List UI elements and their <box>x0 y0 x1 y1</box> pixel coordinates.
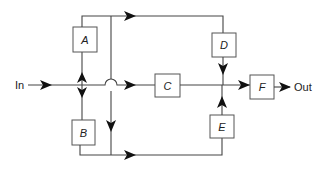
block-c-label: C <box>164 80 172 92</box>
block-d-label: D <box>220 39 228 51</box>
bottom-path-wire <box>80 138 222 155</box>
input-label: In <box>15 79 24 91</box>
block-d: D <box>212 33 236 57</box>
block-a: A <box>73 27 97 52</box>
block-b: B <box>72 120 95 145</box>
main-wire-to-c <box>82 79 155 85</box>
block-e-label: E <box>218 121 226 133</box>
top-path-wire <box>82 16 223 33</box>
block-f: F <box>250 75 274 99</box>
block-c: C <box>155 74 180 97</box>
block-b-label: B <box>80 127 87 139</box>
block-a-label: A <box>80 34 88 46</box>
output-label: Out <box>294 81 312 93</box>
block-diagram: In A B C D E <box>0 0 326 175</box>
block-e: E <box>210 115 234 138</box>
